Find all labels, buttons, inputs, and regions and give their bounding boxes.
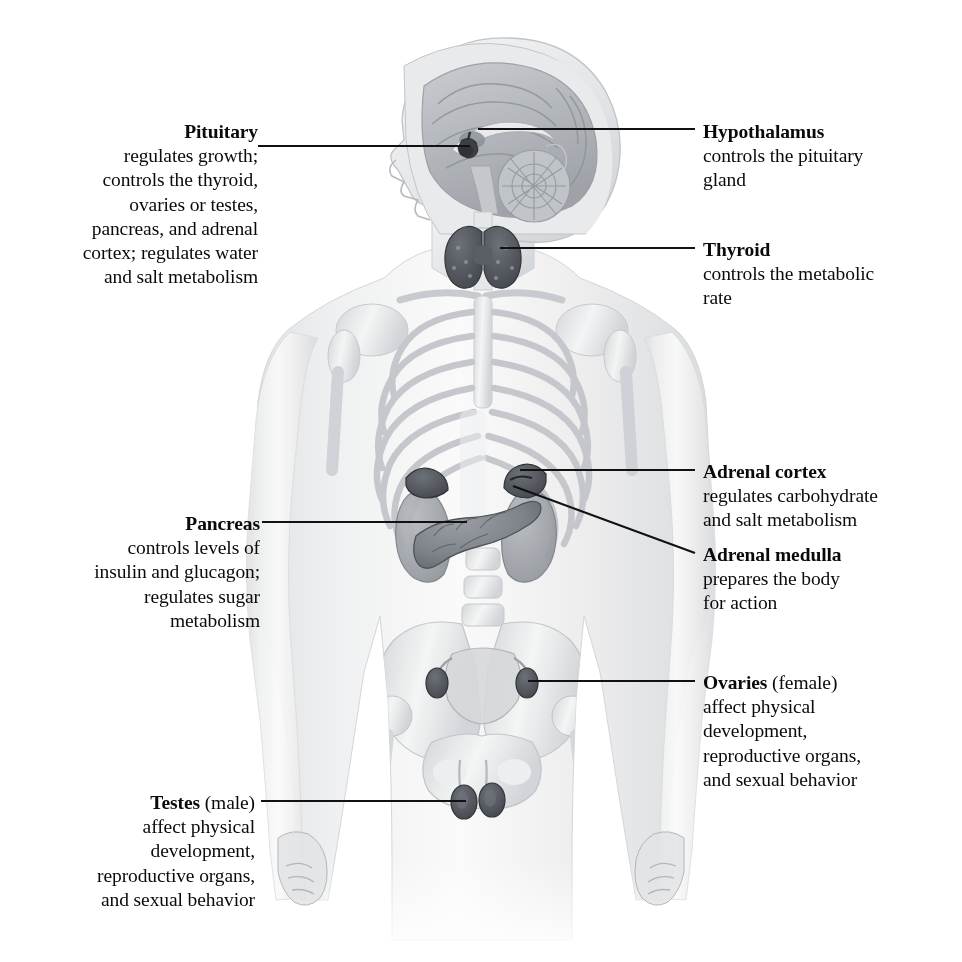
label-adrenal-medulla: Adrenal medulla prepares the body for ac… <box>703 543 955 616</box>
label-adrenal-medulla-desc-0: prepares the body <box>703 568 840 589</box>
label-pituitary-desc-0: regulates growth; <box>124 145 258 166</box>
label-ovaries-term: Ovaries <box>703 672 767 693</box>
label-hypothalamus: Hypothalamus controls the pituitary glan… <box>703 120 953 193</box>
label-adrenal-cortex-desc-1: and salt metabolism <box>703 509 857 530</box>
label-ovaries-desc-1: development, <box>703 720 807 741</box>
label-pituitary-desc-4: cortex; regulates water <box>83 242 258 263</box>
label-thyroid-desc-0: controls the metabolic <box>703 263 874 284</box>
label-pituitary-desc-5: and salt metabolism <box>104 266 258 287</box>
label-pancreas-desc-0: controls levels of <box>127 537 260 558</box>
label-thyroid-term: Thyroid <box>703 239 770 260</box>
label-adrenal-medulla-desc-1: for action <box>703 592 777 613</box>
label-pituitary-term: Pituitary <box>184 121 258 142</box>
label-adrenal-cortex: Adrenal cortex regulates carbohydrate an… <box>703 460 955 533</box>
label-ovaries-desc-2: reproductive organs, <box>703 745 861 766</box>
label-pituitary: Pituitary regulates growth; controls the… <box>20 120 258 289</box>
endocrine-system-figure: Pituitary regulates growth; controls the… <box>0 0 962 962</box>
label-ovaries-desc-3: and sexual behavior <box>703 769 857 790</box>
label-adrenal-medulla-term: Adrenal medulla <box>703 544 841 565</box>
cerebellum <box>498 150 570 222</box>
label-pituitary-desc-2: ovaries or testes, <box>129 194 258 215</box>
label-testes-desc-2: reproductive organs, <box>97 865 255 886</box>
label-hypothalamus-desc-1: gland <box>703 169 746 190</box>
ovary-right <box>516 668 538 698</box>
label-adrenal-cortex-desc-0: regulates carbohydrate <box>703 485 878 506</box>
label-ovaries: Ovaries (female) affect physical develop… <box>703 671 955 792</box>
label-testes-term: Testes <box>150 792 200 813</box>
label-testes: Testes (male) affect physical developmen… <box>10 791 255 912</box>
label-adrenal-cortex-term: Adrenal cortex <box>703 461 826 482</box>
label-testes-desc-3: and sexual behavior <box>101 889 255 910</box>
label-ovaries-desc-0: affect physical <box>703 696 815 717</box>
label-testes-desc-0: affect physical <box>143 816 255 837</box>
label-hypothalamus-desc-0: controls the pituitary <box>703 145 863 166</box>
label-pancreas-desc-2: regulates sugar <box>144 586 260 607</box>
label-hypothalamus-term: Hypothalamus <box>703 121 824 142</box>
label-pituitary-desc-1: controls the thyroid, <box>103 169 259 190</box>
label-pancreas-term: Pancreas <box>185 513 260 534</box>
label-testes-qualifier: (male) <box>200 792 255 813</box>
label-pancreas-desc-1: insulin and glucagon; <box>94 561 260 582</box>
label-testes-desc-1: development, <box>151 840 255 861</box>
label-ovaries-qualifier: (female) <box>767 672 837 693</box>
label-pancreas-desc-3: metabolism <box>170 610 260 631</box>
label-pituitary-desc-3: pancreas, and adrenal <box>92 218 258 239</box>
ovary-left <box>426 668 448 698</box>
label-pancreas: Pancreas controls levels of insulin and … <box>20 512 260 633</box>
label-thyroid: Thyroid controls the metabolic rate <box>703 238 953 311</box>
label-thyroid-desc-1: rate <box>703 287 732 308</box>
